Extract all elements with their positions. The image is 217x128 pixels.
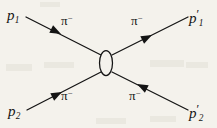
particle-label-pion-lower-left: π− <box>61 89 73 102</box>
feynman-diagram-figure: p1 p′1 p2 p′2 π− π− π− π− <box>0 0 217 128</box>
momentum-subscript: 1 <box>15 15 20 25</box>
pion-symbol: π <box>129 88 136 103</box>
charge-sign: − <box>68 13 73 23</box>
momentum-label-p1: p1 <box>7 8 19 25</box>
momentum-label-p1-prime: p′1 <box>189 8 203 28</box>
interaction-blob <box>100 51 113 76</box>
charge-sign: − <box>136 88 141 98</box>
momentum-subscript: 1 <box>199 18 204 28</box>
momentum-label-p2-prime: p′2 <box>189 103 203 123</box>
momentum-symbol: p <box>8 103 16 119</box>
pion-symbol: π <box>61 13 68 28</box>
line-lower-right <box>112 72 188 110</box>
particle-label-pion-lower-right: π− <box>129 89 141 102</box>
momentum-subscript: 2 <box>16 111 21 121</box>
charge-sign: − <box>138 13 143 23</box>
particle-label-pion-upper-right: π− <box>131 14 143 27</box>
diagram-canvas <box>0 0 217 128</box>
charge-sign: − <box>68 88 73 98</box>
pion-symbol: π <box>61 88 68 103</box>
momentum-symbol: p <box>7 7 15 23</box>
arrowhead-upper-right-outward <box>140 31 154 43</box>
momentum-subscript: 2 <box>199 113 204 123</box>
particle-label-pion-upper-left: π− <box>61 14 73 27</box>
pion-symbol: π <box>131 13 138 28</box>
momentum-label-p2: p2 <box>8 104 20 121</box>
